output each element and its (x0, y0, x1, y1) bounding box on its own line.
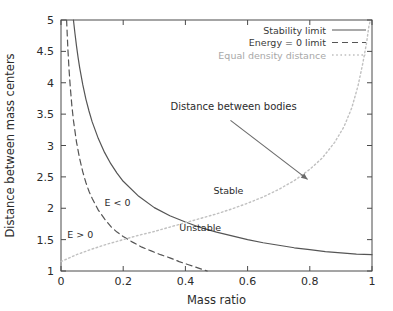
callout-arrowhead (301, 173, 308, 179)
chart-canvas: 00.20.40.60.8111.522.533.544.55Mass rati… (0, 0, 393, 311)
plot-annotation-1: Unstable (179, 222, 221, 233)
y-axis-tick-label: 4.5 (37, 45, 55, 58)
y-axis-tick-label: 2.5 (37, 171, 55, 184)
plot-annotation-0: Stable (213, 185, 243, 196)
callout-label: Distance between bodies (170, 101, 296, 112)
x-axis-tick-label: 0.2 (114, 275, 132, 288)
chart-figure: 00.20.40.60.8111.522.533.544.55Mass rati… (0, 0, 393, 311)
y-axis-tick-label: 1 (47, 265, 54, 278)
x-axis-tick-label: 1 (369, 275, 376, 288)
x-axis-tick-label: 0.6 (239, 275, 257, 288)
y-axis-tick-label: 5 (47, 14, 54, 27)
plot-annotation-3: E > 0 (67, 229, 93, 240)
y-axis-tick-label: 2 (47, 202, 54, 215)
x-axis-title: Mass ratio (187, 293, 246, 307)
x-axis-tick-label: 0.4 (177, 275, 195, 288)
legend-label-0: Stability limit (263, 25, 326, 36)
callout-arrow-line (230, 120, 307, 179)
x-axis-tick-label: 0 (58, 275, 65, 288)
y-axis-tick-label: 3 (47, 140, 54, 153)
y-axis-tick-label: 3.5 (37, 108, 55, 121)
x-axis-tick-label: 0.8 (301, 275, 319, 288)
y-axis-tick-label: 1.5 (37, 234, 55, 247)
legend-label-2: Equal density distance (218, 50, 326, 61)
y-axis-tick-label: 4 (47, 77, 54, 90)
plot-annotation-2: E < 0 (105, 197, 131, 208)
legend-label-1: Energy = 0 limit (249, 37, 326, 48)
y-axis-title: Distance between mass centers (3, 53, 17, 237)
